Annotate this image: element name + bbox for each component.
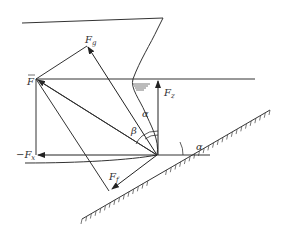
label-F-g: Fg (84, 34, 97, 47)
angle-arc-slope-alpha (180, 142, 183, 155)
vector-F-g (88, 47, 157, 155)
F-bar-to-F-f-line (36, 79, 109, 191)
label-beta: β (130, 125, 137, 136)
water-level-marks (133, 84, 150, 90)
force-diagram: F Fg Fz −Fx Ff α β α (0, 0, 288, 229)
slope-hatching (81, 110, 270, 224)
label-F-bar: F (26, 76, 35, 87)
label-neg-F-x: −Fx (16, 149, 35, 162)
lower-boundary (25, 155, 157, 163)
F-bar-to-F-g-line (36, 46, 87, 79)
label-alpha-2: α (196, 141, 203, 152)
label-alpha-1: α (142, 108, 149, 119)
label-F-f: Ff (108, 171, 120, 184)
angle-arc-beta (136, 136, 142, 144)
label-F-s: Fz (163, 87, 175, 100)
